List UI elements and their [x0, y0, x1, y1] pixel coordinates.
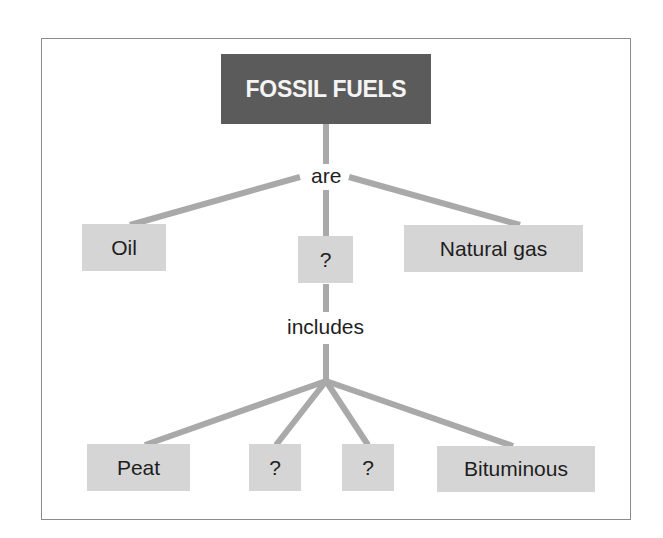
link-label-includes: includes — [284, 315, 367, 339]
node-natural-gas: Natural gas — [404, 225, 583, 272]
link-branch-bituminous — [326, 381, 513, 446]
node-unknown-coal-2: ? — [342, 444, 394, 491]
node-peat: Peat — [87, 444, 190, 491]
node-unknown-type: ? — [298, 236, 353, 283]
node-bituminous: Bituminous — [437, 446, 595, 492]
node-oil: Oil — [82, 224, 166, 271]
node-unknown-coal-1-label: ? — [269, 456, 281, 480]
root-node-fossil-fuels: FOSSIL FUELS — [221, 54, 431, 124]
node-peat-label: Peat — [117, 456, 160, 480]
node-bituminous-label: Bituminous — [464, 457, 568, 481]
node-unknown-coal-1: ? — [249, 444, 301, 491]
node-natural-gas-label: Natural gas — [440, 237, 547, 261]
node-unknown-type-label: ? — [320, 248, 332, 272]
node-unknown-coal-2-label: ? — [362, 456, 374, 480]
link-label-are: are — [308, 164, 344, 188]
node-oil-label: Oil — [111, 236, 137, 260]
link-are-natural-gas — [349, 177, 520, 225]
link-are-oil — [130, 177, 300, 225]
